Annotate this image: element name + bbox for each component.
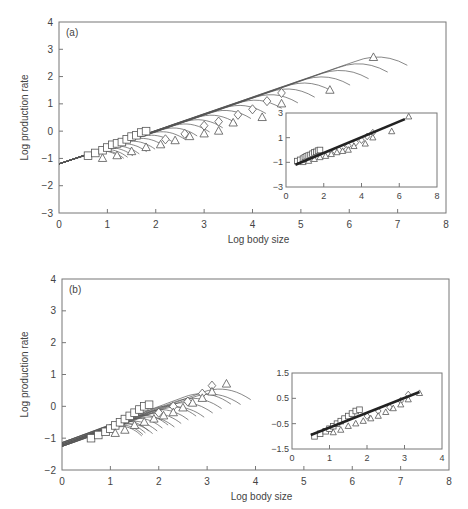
triangle-marker [277, 99, 285, 107]
x-tick-label: 6 [349, 476, 355, 487]
y-tick-label: −3 [42, 208, 54, 219]
y-tick-label: −2 [42, 180, 54, 191]
x-tick-label: 5 [298, 219, 304, 230]
diamond-marker [215, 117, 223, 126]
inset-x-tick-label: 2 [364, 453, 369, 463]
inset-x-tick-label: 3 [402, 453, 407, 463]
diamond-marker [249, 105, 257, 114]
x-tick-label: 0 [56, 219, 62, 230]
y-tick-label: −2 [45, 465, 57, 476]
square-marker [94, 431, 102, 439]
x-tick-label: 8 [443, 219, 449, 230]
x-tick-label: 1 [105, 219, 111, 230]
inset-x-tick-label: 0 [283, 191, 288, 201]
x-tick-label: 2 [156, 476, 162, 487]
y-tick-label: 4 [47, 17, 53, 28]
y-tick-label: 2 [50, 337, 56, 348]
inset-chart-a: 0246831−1−3 [273, 108, 440, 201]
triangle-marker [214, 127, 222, 135]
inset-x-tick-label: 4 [359, 191, 364, 201]
chart-panel-a: 01234567843210−1−2−3 (a) Log body size L… [19, 17, 449, 246]
square-marker [142, 127, 150, 135]
inset-y-tick-label: 0.5 [276, 393, 289, 403]
square-marker [317, 147, 323, 153]
y-tick-label: 2 [47, 71, 53, 82]
panel-label-a: (a) [66, 27, 78, 38]
y-tick-label: 1 [50, 369, 56, 380]
inset-x-tick-label: 6 [397, 191, 402, 201]
inset-y-tick-label: −0.5 [271, 419, 289, 429]
x-tick-label: 7 [395, 219, 401, 230]
figure: 01234567843210−1−2−3 (a) Log body size L… [0, 0, 468, 509]
x-tick-label: 4 [250, 219, 256, 230]
panel-label-b: (b) [69, 284, 81, 295]
x-tick-label: 6 [346, 219, 352, 230]
y-tick-label: −1 [42, 153, 54, 164]
x-tick-label: 5 [301, 476, 307, 487]
x-tick-label: 4 [253, 476, 259, 487]
x-axis-label-b: Log body size [231, 491, 293, 502]
inset-x-tick-label: 8 [434, 191, 439, 201]
y-axis-label-b: Log production rate [19, 331, 30, 418]
square-marker [145, 401, 153, 409]
square-marker [91, 149, 99, 157]
x-tick-label: 3 [204, 476, 210, 487]
inset-x-tick-label: 2 [321, 191, 326, 201]
diamond-marker [263, 97, 271, 106]
triangle-marker [169, 408, 177, 416]
triangle-marker [208, 387, 216, 395]
triangle-marker [171, 136, 179, 144]
inset-y-tick-label: 1 [278, 133, 283, 143]
y-tick-label: −1 [45, 433, 57, 444]
inset-x-tick-label: 0 [289, 453, 294, 463]
x-tick-label: 8 [446, 476, 452, 487]
y-tick-label: 4 [50, 274, 56, 285]
square-marker [87, 434, 95, 442]
triangle-marker [258, 113, 266, 121]
x-tick-label: 0 [59, 476, 65, 487]
y-tick-label: 3 [47, 44, 53, 55]
inset-x-tick-label: 1 [327, 453, 332, 463]
y-tick-label: 0 [47, 126, 53, 137]
triangle-marker [326, 86, 334, 94]
chart-panel-b: 01234567843210−1−2 (b) Log body size Log… [19, 274, 452, 503]
inset-y-tick-label: −1.5 [271, 444, 289, 454]
x-tick-label: 2 [153, 219, 159, 230]
triangle-marker [140, 418, 148, 426]
y-axis-label-a: Log production rate [19, 74, 30, 161]
x-tick-label: 3 [201, 219, 207, 230]
inset-y-tick-label: −1 [273, 157, 283, 167]
inset-chart-b: 012341.50.5−0.5−1.5 [271, 368, 444, 463]
y-tick-label: 1 [47, 98, 53, 109]
triangle-marker [369, 53, 377, 61]
diamond-marker [162, 135, 170, 144]
growth-trajectory [59, 124, 210, 164]
inset-x-tick-label: 4 [439, 453, 444, 463]
inset-y-tick-label: 3 [278, 108, 283, 118]
x-tick-label: 1 [108, 476, 114, 487]
inset-y-tick-label: −3 [273, 182, 283, 192]
x-axis-label-a: Log body size [228, 234, 290, 245]
triangle-marker [222, 379, 230, 387]
x-tick-label: 7 [398, 476, 404, 487]
y-tick-label: 3 [50, 305, 56, 316]
triangle-marker [142, 143, 150, 151]
triangle-marker [98, 154, 106, 162]
inset-y-tick-label: 1.5 [276, 368, 289, 378]
square-marker [84, 152, 92, 160]
square-marker [357, 407, 363, 413]
y-tick-label: 0 [50, 401, 56, 412]
